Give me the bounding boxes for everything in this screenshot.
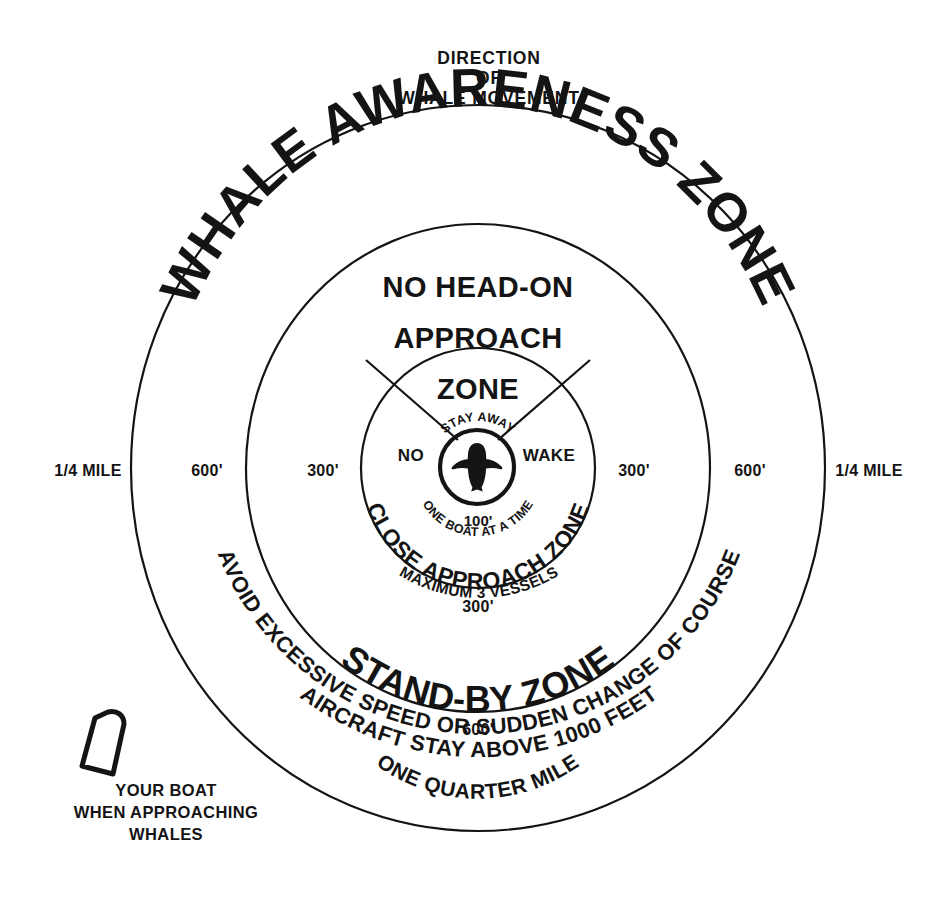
boat-icon: [82, 712, 124, 774]
boat-caption-line-1: YOUR BOAT: [115, 781, 216, 799]
wedge-label-block: NO HEAD-ON APPROACH ZONE: [383, 271, 574, 405]
core-label-no: NO: [398, 446, 424, 465]
wedge-label-line-1: NO HEAD-ON: [383, 271, 574, 303]
boat-caption-block: YOUR BOAT WHEN APPROACHING WHALES: [74, 781, 259, 843]
wedge-label-line-2: APPROACH: [393, 322, 562, 354]
whale-zone-diagram: DIRECTION OF WHALE MOVEMENT WHALE AWAREN…: [0, 0, 951, 904]
core-label-wake: WAKE: [523, 446, 576, 465]
radius-label-left-600ft: 600': [191, 462, 223, 479]
boat-caption-line-3: WHALES: [129, 825, 203, 843]
radius-label-left-300ft: 300': [307, 462, 339, 479]
boat-caption-line-2: WHEN APPROACHING: [74, 803, 259, 821]
radius-label-right-300ft: 300': [618, 462, 650, 479]
radius-label-left-quarter-mile: 1/4 MILE: [54, 462, 121, 479]
radius-label-right-600ft: 600': [734, 462, 766, 479]
radius-label-right-quarter-mile: 1/4 MILE: [835, 462, 902, 479]
diagram-canvas: DIRECTION OF WHALE MOVEMENT WHALE AWAREN…: [0, 0, 951, 904]
wedge-label-line-3: ZONE: [437, 373, 519, 405]
